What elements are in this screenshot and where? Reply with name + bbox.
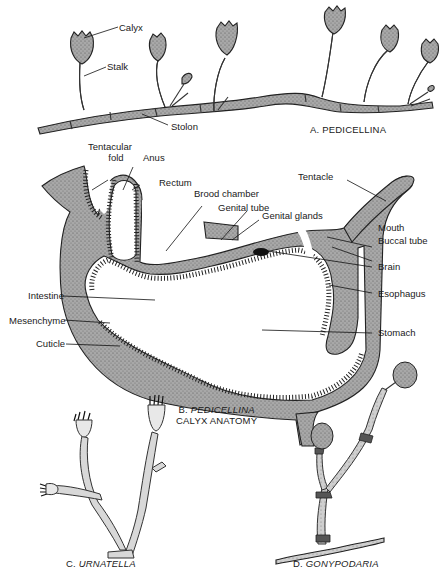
label-tentacular-fold-line1: Tentacular (88, 141, 132, 152)
panel-a-pedicellina-colony (38, 6, 439, 134)
genital-tube-shape (204, 222, 238, 240)
panel-c-urnatella (40, 395, 166, 558)
gonypodaria-calyx-small (311, 423, 333, 449)
caption-a: A. PEDICELLINA (310, 124, 386, 135)
label-tentacular-fold-line2: fold (108, 152, 123, 163)
label-buccal-tube: Buccal tube (378, 235, 428, 246)
zooid-1 (71, 31, 94, 110)
label-mouth: Mouth (378, 222, 404, 233)
caption-c-prefix: C. (66, 558, 76, 569)
zooid-6 (408, 39, 439, 106)
label-intestine: Intestine (28, 290, 64, 301)
caption-b-name: PEDICELLINA (191, 404, 255, 415)
caption-d: D. GONYPODARIA (293, 558, 379, 569)
label-mesenchyme: Mesenchyme (9, 315, 66, 326)
caption-c: C. URNATELLA (66, 558, 136, 569)
zooid-4 (322, 6, 345, 97)
label-tentacular-fold: Tentacular fold (88, 141, 132, 163)
zooid-3 (214, 21, 238, 112)
label-genital-glands: Genital glands (262, 210, 323, 221)
rectum-cavity (109, 181, 136, 261)
label-stomach: Stomach (378, 327, 416, 338)
label-brain: Brain (378, 261, 400, 272)
zooid-2 (149, 33, 192, 107)
caption-a-prefix: A. (310, 124, 319, 135)
caption-d-name: GONYPODARIA (306, 558, 379, 569)
label-esophagus: Esophagus (378, 288, 426, 299)
caption-b: B. PEDICELLINA CALYX ANATOMY (176, 404, 257, 426)
label-stalk: Stalk (107, 61, 128, 72)
label-cuticle: Cuticle (36, 338, 65, 349)
gonypodaria-calyx-large (393, 362, 417, 388)
caption-b-line2: CALYX ANATOMY (176, 415, 257, 426)
label-brood-chamber: Brood chamber (194, 188, 259, 199)
label-anus: Anus (143, 152, 165, 163)
brain-shape (253, 248, 269, 256)
caption-b-prefix: B. (179, 404, 188, 415)
zooid-5 (364, 25, 399, 102)
label-calyx: Calyx (119, 22, 143, 33)
label-stolon: Stolon (171, 121, 198, 132)
caption-d-prefix: D. (293, 558, 303, 569)
label-tentacle: Tentacle (298, 171, 333, 182)
label-rectum: Rectum (159, 177, 192, 188)
caption-c-name: URNATELLA (79, 558, 136, 569)
caption-a-name: PEDICELLINA (322, 124, 386, 135)
